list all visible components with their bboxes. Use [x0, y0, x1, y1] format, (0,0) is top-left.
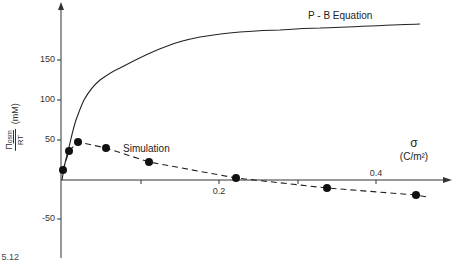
- x-tick-label-0.4: 0.4: [361, 168, 391, 178]
- x-label-sigma: σ: [392, 136, 436, 151]
- figure-caption-fragment: e 5.12: [0, 252, 19, 261]
- data-point: [145, 158, 153, 166]
- y-axis-arrow-icon: [58, 2, 64, 10]
- data-point: [74, 138, 82, 146]
- data-point: [323, 184, 331, 192]
- chart-plot-area: [0, 0, 456, 261]
- simulation-label: Simulation: [123, 143, 170, 154]
- data-point: [59, 166, 67, 174]
- y-label-fraction: Πosm RT: [5, 129, 25, 151]
- pb-equation-curve: [62, 24, 420, 180]
- pb-equation-label: P - B Equation: [308, 10, 372, 21]
- data-point: [232, 174, 240, 182]
- y-ticks: [57, 60, 61, 219]
- y-tick-label-neg50: -50: [25, 213, 55, 223]
- data-point: [65, 147, 73, 155]
- y-label-subscript: osm: [6, 130, 13, 143]
- y-label-pi: Π: [4, 143, 14, 150]
- y-label-denominator: RT: [16, 135, 25, 146]
- y-label-unit: (mM): [10, 103, 20, 124]
- y-tick-label-150: 150: [25, 54, 55, 64]
- data-point: [412, 191, 420, 199]
- y-axis-label: Πosm RT (mM): [0, 82, 30, 172]
- x-axis-arrow-icon: [443, 177, 452, 183]
- data-point: [102, 144, 110, 152]
- x-ticks: [141, 180, 376, 184]
- x-label-unit: (C/m²): [392, 151, 436, 164]
- x-tick-label-0.2: 0.2: [204, 186, 234, 196]
- x-axis-label: σ (C/m²): [392, 136, 436, 164]
